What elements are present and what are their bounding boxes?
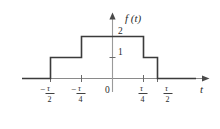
y-axis bbox=[109, 13, 115, 93]
x-tick-label-neg-tau-over-4: − τ 4 bbox=[71, 84, 86, 104]
x-tick-label-tau-over-4: τ 4 bbox=[139, 84, 148, 104]
x-axis-label: t bbox=[200, 83, 204, 95]
y-axis-label: f (t) bbox=[125, 12, 142, 25]
x-tick-label-neg-tau-over-2-sign: − bbox=[40, 84, 45, 94]
x-tick-label-neg-tau-over-2-denominator: 2 bbox=[48, 95, 52, 104]
x-tick-label-tau-over-4-numerator: τ bbox=[140, 84, 144, 93]
step-function-svg: f (t) t 2 1 0 − τ 2 − τ 4 τ 4 τ bbox=[0, 0, 220, 129]
x-axis-arrowhead bbox=[202, 75, 210, 81]
origin-label: 0 bbox=[105, 85, 110, 95]
x-tick-label-tau-over-2: τ 2 bbox=[164, 84, 173, 104]
y-tick-label-2: 2 bbox=[118, 26, 123, 36]
x-tick-label-neg-tau-over-2: − τ 2 bbox=[40, 84, 55, 104]
x-tick-label-neg-tau-over-4-numerator: τ bbox=[78, 84, 82, 93]
x-tick-label-neg-tau-over-2-numerator: τ bbox=[47, 84, 51, 93]
x-tick-label-neg-tau-over-4-denominator: 4 bbox=[79, 95, 83, 104]
x-tick-label-tau-over-2-denominator: 2 bbox=[166, 95, 170, 104]
x-tick-label-tau-over-4-denominator: 4 bbox=[141, 95, 145, 104]
x-tick-label-tau-over-2-numerator: τ bbox=[165, 84, 169, 93]
y-axis-arrowhead bbox=[109, 13, 115, 20]
figure-container: f (t) t 2 1 0 − τ 2 − τ 4 τ 4 τ bbox=[0, 0, 220, 129]
step-function-curve bbox=[22, 37, 196, 79]
y-tick-label-1: 1 bbox=[118, 47, 123, 57]
x-tick-label-neg-tau-over-4-sign: − bbox=[71, 84, 76, 94]
